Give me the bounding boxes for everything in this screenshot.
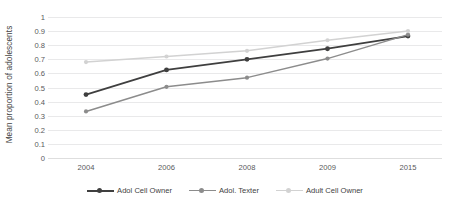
data-point xyxy=(325,38,329,42)
chart-legend: Adol Cell OwnerAdol. TexterAdult Cell Ow… xyxy=(0,181,450,199)
series-layer xyxy=(48,17,442,158)
legend-item[interactable]: Adult Cell Owner xyxy=(276,186,363,195)
legend-label: Adol. Texter xyxy=(219,186,259,195)
y-axis-tick-label: 0 xyxy=(41,154,45,163)
y-axis-tick-label: 0.3 xyxy=(34,111,45,120)
data-point xyxy=(245,57,250,62)
legend-item[interactable]: Adol Cell Owner xyxy=(87,186,172,195)
y-axis-tick-labels: 10.90.80.70.60.50.40.30.20.10 xyxy=(20,0,48,168)
x-axis-tick-label: 2009 xyxy=(319,163,336,172)
series-line xyxy=(86,35,408,112)
legend-swatch-icon xyxy=(276,186,303,195)
x-axis-tick-labels: 20042006200820092015 xyxy=(48,161,442,177)
data-point xyxy=(164,54,168,58)
data-point xyxy=(84,92,89,97)
data-point xyxy=(245,49,249,53)
y-axis-tick-label: 0.4 xyxy=(34,97,45,106)
series-2 xyxy=(84,33,410,114)
x-axis-tick-label: 2004 xyxy=(78,163,95,172)
legend-swatch-icon xyxy=(87,186,114,195)
data-point xyxy=(406,29,410,33)
data-point xyxy=(84,109,88,113)
y-axis-tick-label: 0.2 xyxy=(34,125,45,134)
data-point xyxy=(325,46,330,51)
y-axis-tick-label: 1 xyxy=(41,13,45,22)
y-axis-title: Mean proportion of adolescents xyxy=(0,0,20,168)
legend-item[interactable]: Adol. Texter xyxy=(189,186,259,195)
y-axis-tick-label: 0.9 xyxy=(34,27,45,36)
series-1 xyxy=(84,34,411,97)
line-chart: Mean proportion of adolescents 10.90.80.… xyxy=(0,0,450,205)
legend-label: Adol Cell Owner xyxy=(117,186,172,195)
data-point xyxy=(164,67,169,72)
y-axis-tick-label: 0.1 xyxy=(34,139,45,148)
gridline xyxy=(48,158,442,159)
data-point xyxy=(84,60,88,64)
x-axis-tick-label: 2006 xyxy=(158,163,175,172)
y-axis-tick-label: 0.5 xyxy=(34,83,45,92)
y-axis-title-label: Mean proportion of adolescents xyxy=(6,25,15,143)
data-point xyxy=(325,56,329,60)
x-axis-tick-label: 2008 xyxy=(239,163,256,172)
series-line xyxy=(86,36,408,95)
y-axis-tick-label: 0.7 xyxy=(34,55,45,64)
data-point xyxy=(245,76,249,80)
legend-swatch-icon xyxy=(189,186,216,195)
plot-area xyxy=(48,17,442,158)
data-point xyxy=(164,85,168,89)
y-axis-tick-label: 0.6 xyxy=(34,69,45,78)
y-axis-tick-label: 0.8 xyxy=(34,41,45,50)
legend-label: Adult Cell Owner xyxy=(306,186,363,195)
x-axis-tick-label: 2015 xyxy=(400,163,417,172)
